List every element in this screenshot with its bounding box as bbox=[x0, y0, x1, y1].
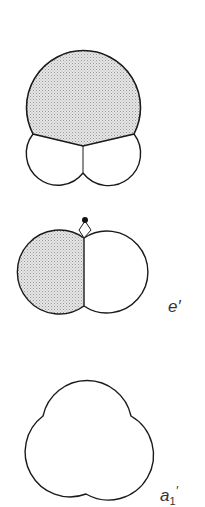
upper-lobe-shaded bbox=[27, 51, 141, 146]
orbital-diagram: e′ a1′ bbox=[0, 0, 205, 507]
label-e-prime: e′ bbox=[168, 297, 181, 316]
left-lobe-shaded bbox=[17, 230, 84, 314]
right-lobe bbox=[84, 231, 148, 313]
label-a1-prime: a1′ bbox=[160, 483, 179, 507]
nucleus-dot bbox=[82, 217, 88, 223]
trefoil-outline bbox=[25, 380, 153, 500]
figure-middle: e′ bbox=[17, 217, 181, 316]
figure-bottom: a1′ bbox=[25, 380, 178, 507]
figure-top bbox=[26, 51, 140, 186]
